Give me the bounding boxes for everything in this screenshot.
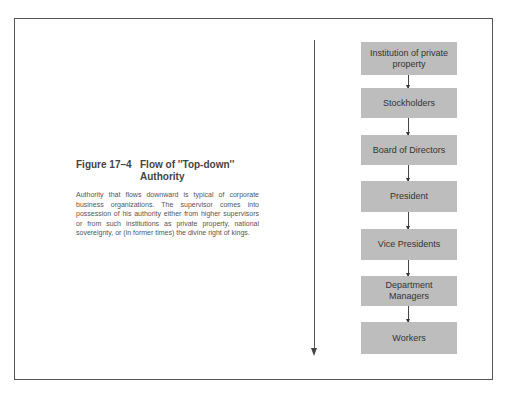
arrow-down-icon	[408, 118, 409, 135]
arrow-down-icon	[408, 306, 409, 322]
arrow-down-icon	[408, 212, 409, 229]
arrow-down-icon	[408, 75, 409, 88]
figure-title-line2: Authority	[76, 171, 234, 183]
node-board-of-directors: Board of Directors	[361, 135, 457, 165]
arrow-down-icon	[311, 348, 317, 356]
node-stockholders: Stockholders	[361, 88, 457, 118]
node-institution: Institution of private property	[361, 42, 457, 75]
authority-flow-line	[314, 40, 315, 350]
figure-caption-title: Figure 17–4Flow of ''Top-down'' Authorit…	[76, 159, 234, 183]
arrow-down-icon	[408, 165, 409, 181]
node-workers: Workers	[361, 322, 457, 354]
node-department-managers: Department Managers	[361, 276, 457, 306]
node-vice-presidents: Vice Presidents	[361, 229, 457, 260]
figure-number: Figure 17–4	[76, 159, 140, 171]
figure-caption-body: Authority that flows downward is typical…	[76, 190, 259, 238]
node-president: President	[361, 181, 457, 212]
figure-title-line1: Flow of ''Top-down''	[140, 159, 234, 170]
arrow-down-icon	[408, 260, 409, 276]
